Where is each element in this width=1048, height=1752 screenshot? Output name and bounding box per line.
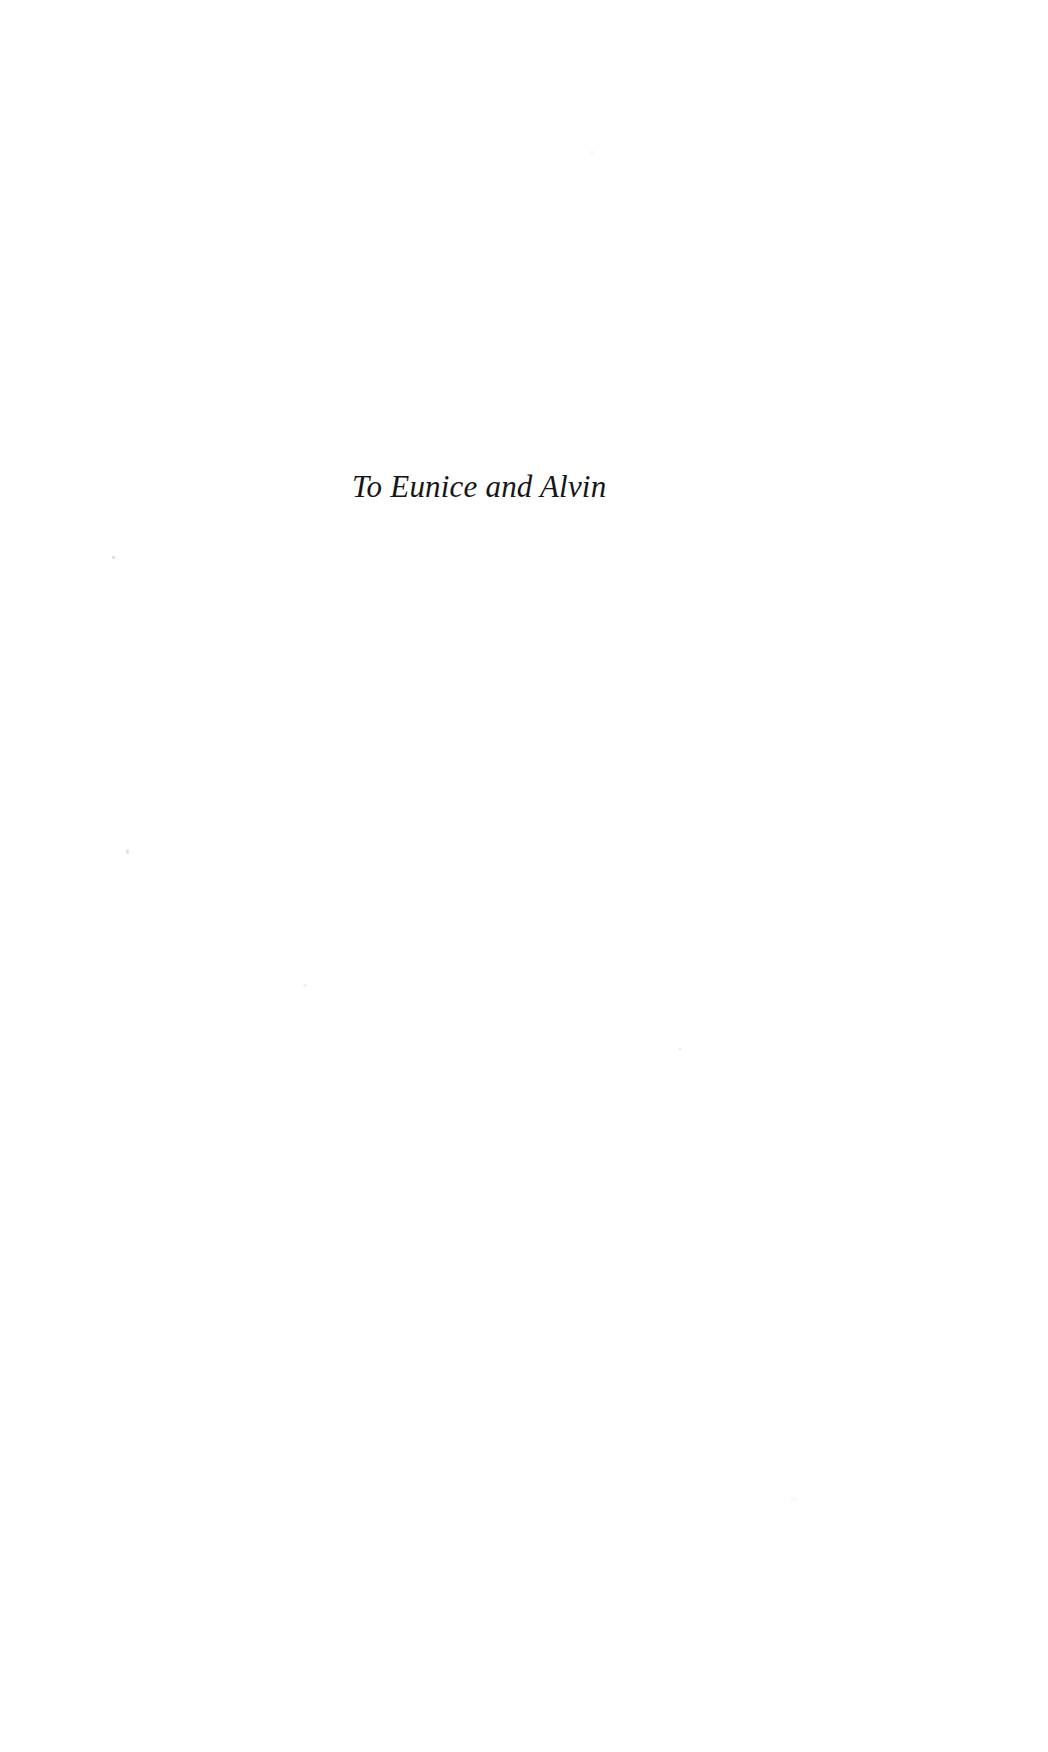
scan-speck: [589, 151, 595, 155]
scan-speck: [791, 1497, 797, 1501]
dedication-text: To Eunice and Alvin: [352, 470, 606, 504]
scan-speck: [112, 556, 115, 559]
scan-speck: [679, 1048, 681, 1050]
scan-speck: [303, 984, 307, 987]
scan-speck: [126, 849, 129, 854]
dedication-page: To Eunice and Alvin: [0, 0, 1048, 1752]
